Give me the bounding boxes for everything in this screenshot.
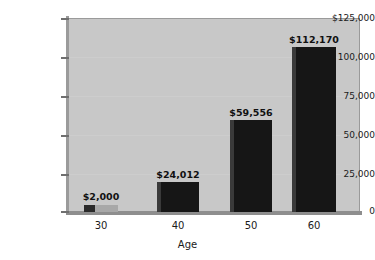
bar-value-label-age-50: $59,556 <box>221 108 281 118</box>
y-tick-125000 <box>61 18 69 20</box>
y-tick-0 <box>61 211 69 213</box>
bar-value-label-age-30: $2,000 <box>71 192 131 202</box>
y-tick-50000 <box>61 135 69 137</box>
x-tick-label-60: 60 <box>284 221 344 231</box>
bar-edge-age-50 <box>230 120 234 212</box>
x-tick-label-50: 50 <box>221 221 281 231</box>
y-tick-100000 <box>61 57 69 59</box>
x-tick-label-30: 30 <box>71 221 131 231</box>
x-axis-title: Age <box>0 240 375 250</box>
x-tick-label-40: 40 <box>148 221 208 231</box>
bar-age-60 <box>292 47 336 212</box>
y-tick-75000 <box>61 96 69 98</box>
bar-edge-age-60 <box>292 47 296 212</box>
bar-value-label-age-40: $24,012 <box>148 170 208 180</box>
bar-edge-age-40 <box>157 182 161 212</box>
y-axis-line <box>66 16 69 213</box>
bar-age-40 <box>157 182 199 212</box>
bar-chart: $125,000 100,000 75,000 50,000 25,000 0 … <box>0 0 375 260</box>
y-tick-25000 <box>61 174 69 176</box>
bar-age-50 <box>230 120 272 212</box>
bar-age-30 <box>84 205 118 212</box>
bar-value-label-age-60: $112,170 <box>283 35 345 45</box>
bar-edge-age-30 <box>84 205 95 212</box>
y-tick-label-125000: $125,000 <box>315 14 375 23</box>
